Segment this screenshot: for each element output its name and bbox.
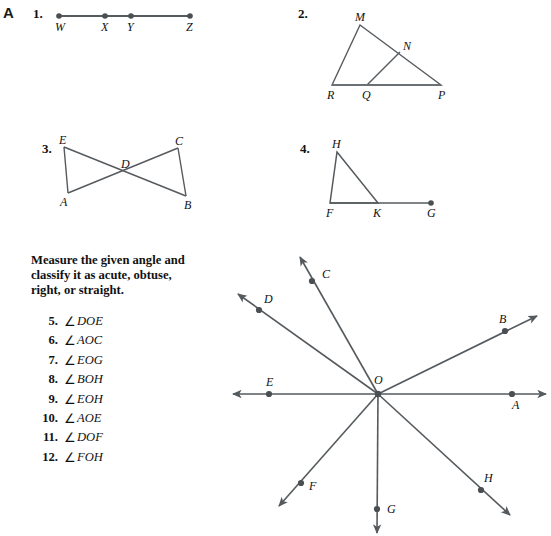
- instructions-line-3: right, or straight.: [31, 283, 231, 298]
- point-label-b: B: [499, 312, 507, 326]
- segment-cb: [178, 148, 186, 196]
- point-o-dot: [375, 391, 381, 397]
- point-label-e: E: [58, 136, 67, 147]
- point-label-f: F: [308, 479, 317, 493]
- point-label-n: N: [402, 39, 412, 53]
- point-z-dot: [187, 13, 193, 19]
- angle-diagram-rays-from-o: ABCDEFGH O: [225, 248, 551, 536]
- ray-oc: [300, 257, 378, 394]
- triangle-rmp: [332, 25, 441, 85]
- point-label-r: R: [326, 88, 335, 102]
- ray-of: [279, 394, 378, 506]
- point-label-z: Z: [186, 20, 193, 34]
- point-label-o: O: [374, 373, 383, 387]
- angle-symbol-icon: ∠: [64, 372, 76, 388]
- exercise-number: 7.: [28, 353, 58, 368]
- exercise-row: 9.∠EOH: [28, 391, 148, 410]
- exercise-number: 6.: [28, 333, 58, 348]
- exercise-list: 5.∠DOE6.∠AOC7.∠EOG8.∠BOH9.∠EOH10.∠AOE11.…: [28, 313, 148, 468]
- point-label-x: X: [100, 20, 109, 34]
- point-label-q: Q: [362, 88, 371, 102]
- point-label-m: M: [354, 10, 366, 24]
- figure-2-triangle-rmp: M N R Q P: [315, 8, 460, 108]
- problem-4-number: 4.: [300, 141, 310, 157]
- point-d-dot: [256, 307, 262, 313]
- point-g-dot: [428, 200, 434, 206]
- point-label-y: Y: [127, 20, 135, 34]
- angle-symbol-icon: ∠: [64, 411, 76, 427]
- angle-symbol-icon: ∠: [64, 430, 76, 446]
- figure-1-segment-wxyz: W X Y Z: [45, 4, 210, 40]
- exercise-angle-expression: ∠AOC: [64, 332, 102, 348]
- angle-name: DOE: [77, 314, 103, 328]
- point-label-g: G: [387, 502, 396, 516]
- problem-3-number: 3.: [42, 141, 52, 157]
- exercise-angle-expression: ∠DOE: [64, 313, 103, 329]
- angle-symbol-icon: ∠: [64, 353, 76, 369]
- triangle-fhk: [330, 152, 378, 203]
- exercise-row: 6.∠AOC: [28, 332, 148, 351]
- point-label-c: C: [322, 267, 331, 281]
- exercise-row: 8.∠BOH: [28, 371, 148, 390]
- instructions-line-1: Measure the given angle and: [31, 253, 231, 268]
- point-h-dot: [478, 487, 484, 493]
- angle-symbol-icon: ∠: [64, 450, 76, 466]
- exercise-number: 9.: [28, 392, 58, 407]
- exercise-row: 10.∠AOE: [28, 410, 148, 429]
- angle-symbol-icon: ∠: [64, 392, 76, 408]
- exercise-number: 5.: [28, 314, 58, 329]
- angle-symbol-icon: ∠: [64, 314, 76, 330]
- point-label-g: G: [427, 206, 436, 218]
- segment-eb: [64, 147, 186, 196]
- exercise-angle-expression: ∠FOH: [64, 449, 103, 465]
- exercise-row: 7.∠EOG: [28, 352, 148, 371]
- point-c-dot: [309, 278, 315, 284]
- instructions-block: Measure the given angle and classify it …: [31, 253, 231, 299]
- point-label-c: C: [175, 136, 184, 148]
- angle-name: DOF: [77, 430, 103, 444]
- exercise-row: 12.∠FOH: [28, 449, 148, 468]
- figure-4-triangle-fhk: H F K G: [318, 140, 448, 218]
- point-w-dot: [56, 13, 62, 19]
- point-g-dot: [374, 506, 380, 512]
- point-label-h: H: [331, 140, 342, 151]
- point-label-h: H: [483, 471, 494, 485]
- exercise-angle-expression: ∠BOH: [64, 371, 103, 387]
- angle-name: AOC: [77, 333, 102, 347]
- point-label-w: W: [55, 20, 66, 34]
- point-a-dot: [509, 391, 515, 397]
- angle-name: AOE: [77, 411, 101, 425]
- segment-ea: [64, 147, 68, 193]
- point-label-p: P: [437, 88, 446, 102]
- problem-1-number: 1.: [33, 6, 43, 22]
- exercise-angle-expression: ∠EOG: [64, 352, 103, 368]
- point-e-dot: [266, 391, 272, 397]
- figure-3-bowtie: E C D A B: [52, 136, 212, 214]
- exercise-angle-expression: ∠AOE: [64, 410, 101, 426]
- segment-qn: [367, 52, 400, 85]
- exercise-row: 11.∠DOF: [28, 429, 148, 448]
- point-label-d: D: [120, 157, 130, 171]
- worksheet-page: A 1. W X Y Z 2. M N R Q P 3. E C D A B 4…: [0, 0, 551, 536]
- exercise-angle-expression: ∠DOF: [64, 429, 103, 445]
- ray-ob: [378, 316, 537, 394]
- problem-2-number: 2.: [298, 6, 308, 22]
- exercise-number: 10.: [28, 411, 58, 426]
- point-label-a: A: [59, 195, 68, 209]
- angle-name: FOH: [77, 450, 103, 464]
- exercise-number: 8.: [28, 372, 58, 387]
- point-label-d: D: [263, 292, 273, 306]
- exercise-row: 5.∠DOE: [28, 313, 148, 332]
- point-label-k: K: [372, 206, 382, 218]
- angle-symbol-icon: ∠: [64, 333, 76, 349]
- point-label-e: E: [265, 375, 274, 389]
- section-letter: A: [3, 4, 14, 21]
- angle-name: BOH: [77, 372, 103, 386]
- exercise-number: 11.: [28, 430, 58, 445]
- instructions-line-2: classify it as acute, obtuse,: [31, 268, 231, 283]
- point-b-dot: [502, 328, 508, 334]
- point-label-b: B: [184, 198, 192, 212]
- angle-name: EOH: [77, 392, 103, 406]
- exercise-angle-expression: ∠EOH: [64, 391, 103, 407]
- point-label-f: F: [325, 206, 334, 218]
